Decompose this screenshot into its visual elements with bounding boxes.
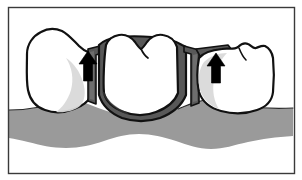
right-abutment-crown xyxy=(196,43,274,113)
illustration-canvas xyxy=(0,0,302,180)
pontic-unit xyxy=(99,35,186,121)
dental-illustration-figure: Line drawing of a three-unit fixed denta… xyxy=(0,0,302,180)
